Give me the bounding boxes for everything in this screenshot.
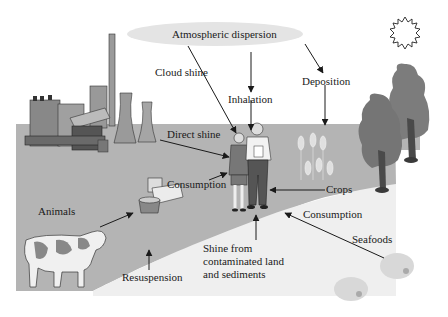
label-consumption-seafood: Consumption xyxy=(303,208,362,220)
label-cloud-shine: Cloud shine xyxy=(155,66,208,78)
label-animals: Animals xyxy=(38,205,75,217)
label-deposition: Deposition xyxy=(302,75,350,87)
label-seafoods: Seafoods xyxy=(352,233,392,245)
label-resuspension: Resuspension xyxy=(122,271,183,283)
cloud-shine-arrow xyxy=(188,46,236,133)
label-crops: Crops xyxy=(326,183,352,195)
label-shine-from-land: Shine from contaminated land and sedimen… xyxy=(203,242,284,281)
label-inhalation: Inhalation xyxy=(228,93,273,105)
sun-icon xyxy=(390,17,420,49)
label-direct-shine: Direct shine xyxy=(167,128,220,140)
deposition-upper-arrow xyxy=(305,44,323,73)
label-consumption-food: Consumption xyxy=(167,178,226,190)
label-atmospheric-dispersion: Atmospheric dispersion xyxy=(172,28,277,40)
exposure-pathways-diagram: Atmospheric dispersion Cloud shine Inhal… xyxy=(0,0,448,317)
